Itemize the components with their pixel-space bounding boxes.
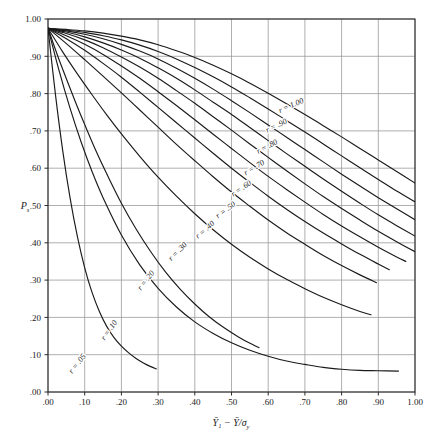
- x-tick-label: .40: [189, 397, 201, 407]
- x-tick-label: .70: [299, 397, 311, 407]
- x-tick-label: .10: [79, 397, 91, 407]
- y-tick-label: .90: [30, 52, 42, 62]
- y-tick-label: .20: [30, 313, 42, 323]
- y-tick-label: 1.00: [25, 14, 41, 24]
- y-tick-label: .50: [30, 201, 42, 211]
- x-tick-label: .50: [226, 397, 238, 407]
- x-tick-label: .80: [336, 397, 348, 407]
- x-tick-label: 1.00: [407, 397, 423, 407]
- y-tick-label: .70: [30, 126, 42, 136]
- x-tick-label: .90: [373, 397, 385, 407]
- y-tick-label: .30: [30, 275, 42, 285]
- x-tick-label: .00: [42, 397, 54, 407]
- y-tick-label: .10: [30, 350, 42, 360]
- x-axis-title: Ȳ₁ − Ȳ/σy: [213, 417, 250, 430]
- y-tick-label: .60: [30, 163, 42, 173]
- y-tick-label: .40: [30, 238, 42, 248]
- x-tick-label: .60: [263, 397, 275, 407]
- x-tick-label: .20: [116, 397, 128, 407]
- y-tick-label: .80: [30, 89, 42, 99]
- chart-canvas: .00.10.20.30.40.50.60.70.80.901.00 1.00.…: [0, 0, 441, 436]
- chart-figure: .00.10.20.30.40.50.60.70.80.901.00 1.00.…: [0, 0, 441, 436]
- y-tick-label: .00: [30, 387, 42, 397]
- x-tick-label: .30: [152, 397, 164, 407]
